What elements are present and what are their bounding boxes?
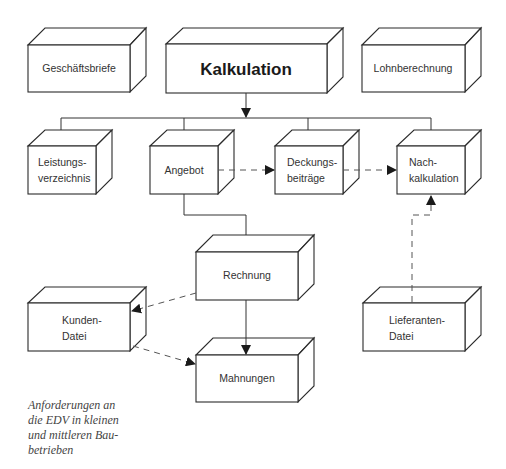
lieferanten-to-nachkalkulation-connector	[412, 196, 431, 302]
label-lohnberechnung: Lohnberechnung	[374, 62, 453, 74]
box-rechnung: Rechnung	[196, 235, 314, 300]
box-lohnberechnung: Lohnberechnung	[362, 28, 481, 92]
box-leistungsverzeichnis: Leistungs- verzeichnis	[28, 130, 112, 194]
caption-line-4: betrieben	[28, 443, 119, 458]
box-nachkalkulation: Nach- kalkulation	[397, 130, 481, 194]
label-leistungsverzeichnis-2: verzeichnis	[38, 172, 91, 184]
label-leistungsverzeichnis-1: Leistungs-	[38, 156, 87, 168]
box-kalkulation: Kalkulation	[166, 28, 343, 93]
box-deckungsbeitraege: Deckungs- beiträge	[275, 130, 359, 194]
label-geschaeftsbriefe: Geschäftsbriefe	[42, 62, 116, 74]
caption-line-3: und mittleren Bau-	[28, 428, 119, 443]
label-kalkulation: Kalkulation	[200, 60, 292, 79]
box-lieferantendatei: Lieferanten- Datei	[363, 287, 481, 351]
figure-caption: Anforderungen an die EDV in kleinen und …	[28, 398, 119, 458]
label-kundendatei-1: Kunden-	[62, 314, 102, 326]
label-rechnung: Rechnung	[223, 269, 271, 281]
caption-line-1: Anforderungen an	[28, 398, 119, 413]
label-nachkalkulation-1: Nach-	[409, 156, 438, 168]
label-nachkalkulation-2: kalkulation	[409, 172, 459, 184]
box-geschaeftsbriefe: Geschäftsbriefe	[28, 28, 146, 92]
kalkulation-connectors	[61, 93, 431, 145]
box-angebot: Angebot	[150, 130, 234, 194]
box-kundendatei: Kunden- Datei	[28, 287, 146, 351]
label-kundendatei-2: Datei	[62, 330, 87, 342]
label-deckungsbeitraege-1: Deckungs-	[287, 156, 338, 168]
caption-line-2: die EDV in kleinen	[28, 413, 119, 428]
label-angebot: Angebot	[164, 164, 203, 176]
label-lieferantendatei-1: Lieferanten-	[389, 314, 446, 326]
label-mahnungen: Mahnungen	[219, 372, 275, 384]
label-deckungsbeitraege-2: beiträge	[287, 172, 325, 184]
kunden-to-mahnungen-connector	[133, 346, 195, 364]
label-lieferantendatei-2: Datei	[389, 330, 414, 342]
box-mahnungen: Mahnungen	[196, 338, 314, 402]
